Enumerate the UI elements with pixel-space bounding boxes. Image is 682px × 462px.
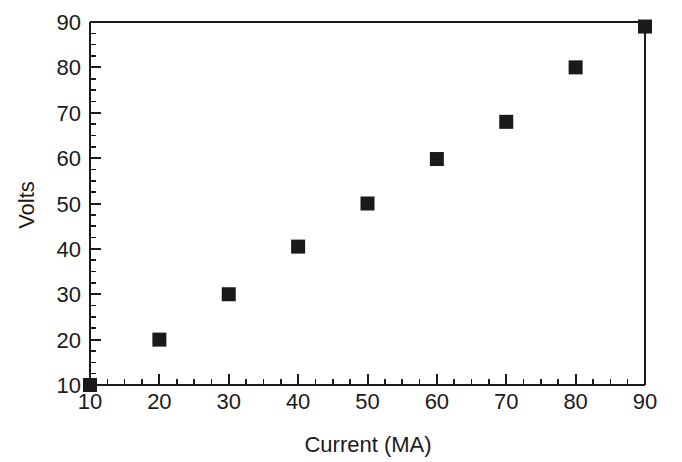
data-point-marker bbox=[291, 240, 305, 254]
y-tick-label: 60 bbox=[57, 146, 81, 171]
y-tick-label: 70 bbox=[57, 101, 81, 126]
y-tick-label: 10 bbox=[57, 373, 81, 398]
y-axis-major-ticks bbox=[90, 22, 101, 385]
data-point-marker bbox=[222, 287, 236, 301]
data-point-marker bbox=[430, 152, 444, 166]
y-tick-label: 40 bbox=[57, 237, 81, 262]
y-tick-label: 20 bbox=[57, 328, 81, 353]
y-axis-tick-labels: 102030405060708090 bbox=[57, 10, 81, 398]
data-point-markers bbox=[83, 20, 652, 392]
data-point-marker bbox=[152, 333, 166, 347]
chart-figure: 102030405060708090 102030405060708090 Cu… bbox=[0, 0, 682, 462]
y-tick-label: 90 bbox=[57, 10, 81, 35]
x-axis-title: Current (MA) bbox=[304, 432, 431, 457]
y-tick-label: 50 bbox=[57, 192, 81, 217]
y-axis-title: Volts bbox=[14, 181, 39, 229]
x-tick-label: 70 bbox=[494, 389, 518, 414]
y-tick-label: 30 bbox=[57, 282, 81, 307]
x-tick-label: 50 bbox=[355, 389, 379, 414]
data-point-marker bbox=[569, 60, 583, 74]
data-point-marker bbox=[638, 20, 652, 34]
x-tick-label: 80 bbox=[563, 389, 587, 414]
y-tick-label: 80 bbox=[57, 55, 81, 80]
x-tick-label: 10 bbox=[78, 389, 102, 414]
scatter-plot-canvas: 102030405060708090 102030405060708090 Cu… bbox=[0, 0, 682, 462]
x-axis-major-ticks bbox=[90, 374, 645, 385]
x-tick-label: 90 bbox=[633, 389, 657, 414]
x-axis-tick-labels: 102030405060708090 bbox=[78, 389, 657, 414]
x-tick-label: 30 bbox=[217, 389, 241, 414]
data-point-marker bbox=[361, 197, 375, 211]
x-tick-label: 60 bbox=[425, 389, 449, 414]
x-tick-label: 40 bbox=[286, 389, 310, 414]
data-point-marker bbox=[499, 115, 513, 129]
data-point-marker bbox=[83, 378, 97, 392]
x-tick-label: 20 bbox=[147, 389, 171, 414]
